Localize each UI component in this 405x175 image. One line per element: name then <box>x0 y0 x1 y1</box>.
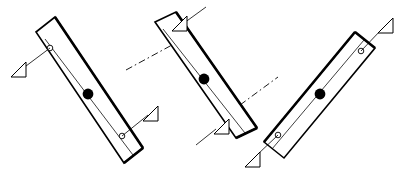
force-vector-lower-right-arrowhead <box>143 106 158 121</box>
rod-assembly-right <box>245 18 393 167</box>
force-vector-lower-left <box>245 135 278 167</box>
figure-canvas: Three-rod force diagram Three inclined r… <box>0 0 405 175</box>
center-mass-dot <box>83 89 94 100</box>
rod-left-shaded-edge <box>55 17 143 148</box>
axis-dashdot-upper-left <box>126 45 172 70</box>
diagram-root: Three-rod force diagram Three inclined r… <box>0 0 405 175</box>
rod-assembly-middle <box>126 7 278 145</box>
force-vector-lower-right <box>122 106 158 136</box>
force-vector-upper-left-arrowhead <box>11 62 26 77</box>
force-vector-lower-inward-arrowhead <box>214 119 229 134</box>
force-vector-upper-right-arrowhead <box>378 18 393 33</box>
force-vector-lower-left-arrowhead <box>245 152 260 167</box>
force-vector-upper-right <box>361 18 393 51</box>
rod-assembly-left <box>11 17 158 163</box>
force-vector-lower-inward-shaft <box>196 129 216 145</box>
force-vector-upper-left <box>11 48 50 77</box>
center-mass-dot <box>315 89 326 100</box>
axis-dashdot-lower-right <box>240 77 278 105</box>
force-vector-lower-inward <box>196 119 229 145</box>
center-mass-dot <box>199 74 210 85</box>
